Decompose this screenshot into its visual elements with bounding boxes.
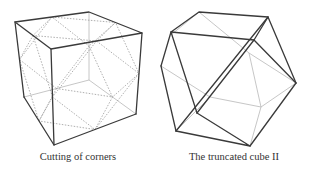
cuboctahedron-hidden-edges [161, 12, 296, 146]
cube-figure: Cutting of corners [0, 0, 156, 171]
cube-caption: Cutting of corners [0, 151, 156, 162]
cube-visible-edges [15, 12, 142, 145]
cube-cut-lines [20, 17, 140, 130]
cube-hidden-edges [24, 12, 136, 114]
cuboctahedron-drawing [156, 0, 312, 150]
cube-drawing [0, 0, 156, 150]
cuboctahedron-caption: The truncated cube II [156, 151, 312, 162]
cuboctahedron-figure: The truncated cube II [156, 0, 312, 171]
